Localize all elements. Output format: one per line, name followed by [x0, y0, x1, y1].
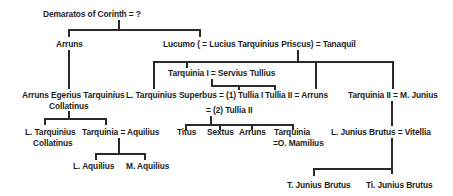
node-lucumo: Lucumo ( = Lucius Tarquinius Priscus) = … [163, 39, 356, 49]
connector [313, 168, 315, 176]
connector [105, 118, 107, 125]
node-superbus-2: = (2) Tullia II [206, 105, 253, 115]
node-tullia-ii: Tullia II = Arruns [265, 90, 328, 100]
node-arruns: Arruns [56, 39, 83, 49]
node-l-collatinus: L. Tarquinius [25, 127, 76, 137]
connector [68, 50, 70, 89]
connector [392, 61, 394, 89]
connector [44, 118, 46, 125]
family-tree-diagram: Demaratos of Corinth = ? Arruns Lucumo (… [0, 0, 453, 196]
connector [118, 138, 120, 154]
node-ti-brutus: Ti. Junius Brutus [366, 180, 433, 190]
node-sextus: Sextus [207, 127, 234, 137]
node-t-brutus: T. Junius Brutus [287, 180, 351, 190]
connector [313, 168, 393, 170]
node-tarquinia-mamilius-2: =O. Mamilius [273, 138, 324, 148]
node-brutus: L. Junius Brutus = Vitellia [331, 127, 431, 137]
node-tarquinia-ii: Tarquinia II = M. Junius [348, 90, 438, 100]
node-tarquinia-i: Tarquinia I = Servius Tullius [168, 68, 275, 78]
connector [185, 124, 293, 126]
node-titus: Titus [177, 127, 196, 137]
node-tarquinia-mamilius: Tarquinia [274, 127, 310, 137]
connector [153, 61, 155, 89]
node-arruns-son: Arruns [239, 127, 266, 137]
connector [199, 29, 201, 37]
connector [68, 29, 200, 31]
connector [144, 153, 146, 160]
node-l-aquilius: L. Aquilius [73, 161, 114, 171]
connector [315, 61, 317, 89]
node-tarquinia-aquilius: Tarquinia = Aquilius [82, 127, 159, 137]
node-demaratos: Demaratos of Corinth = ? [43, 9, 141, 19]
connector [391, 101, 393, 126]
node-arruns-egerius-2: Collatinus [49, 101, 88, 111]
connector [95, 153, 97, 160]
connector [95, 153, 145, 155]
node-m-aquilius: M. Aquilius [126, 161, 169, 171]
connector [186, 61, 188, 68]
node-superbus: L. Tarquinius Superbus = (1) Tullia I [126, 90, 263, 100]
connector [68, 29, 70, 37]
connector [44, 118, 106, 120]
node-arruns-egerius: Arruns Egerius Tarquinius [22, 90, 125, 100]
connector [153, 61, 393, 63]
connector [211, 85, 275, 87]
node-l-collatinus-2: Collatinus [33, 138, 72, 148]
